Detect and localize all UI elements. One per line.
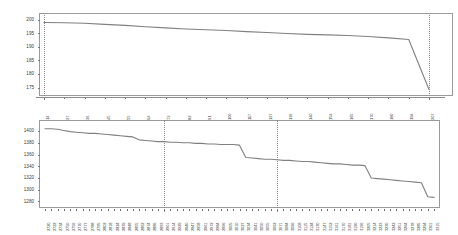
figure-container: 200195190185180175 142736455564738291100… <box>0 0 458 235</box>
bottom-chart-panel: 1400138013601340132013001280 27202722273… <box>0 115 458 235</box>
bottom-chart-series-layer <box>0 115 458 235</box>
top-chart-panel: 200195190185180175 142736455564738291100… <box>0 0 458 118</box>
top-chart-series-line <box>44 22 429 89</box>
bottom-chart-series-line <box>45 129 434 198</box>
top-chart-series-layer <box>0 0 458 118</box>
